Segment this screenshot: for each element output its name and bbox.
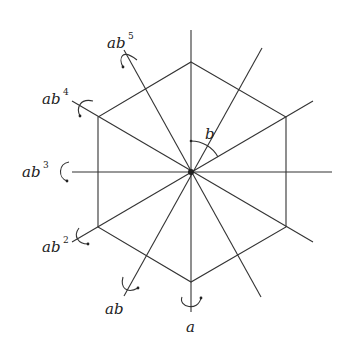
label-ab5-exp: 5 xyxy=(128,31,134,41)
label-ab: ab xyxy=(105,300,124,318)
flip-arrow-ab3 xyxy=(60,162,69,181)
label-a: a xyxy=(186,318,195,336)
flip-arrow-ab xyxy=(122,277,138,290)
label-ab4-exp: 4 xyxy=(63,87,69,97)
label-ab2: ab xyxy=(42,238,61,256)
label-ab4: ab xyxy=(42,90,61,108)
label-ab3: ab xyxy=(22,163,41,181)
hexagon-symmetry-diagram: b ab 5 ab 4 ab 3 ab 2 ab a xyxy=(0,0,349,342)
rotation-arc-b xyxy=(191,141,218,157)
label-ab2-exp: 2 xyxy=(63,235,69,245)
flip-arrow-ab4 xyxy=(79,100,93,116)
label-b: b xyxy=(205,125,215,143)
flip-arrow-ab5 xyxy=(121,54,137,67)
center-point xyxy=(188,169,194,175)
label-ab5: ab xyxy=(107,34,126,52)
label-ab3-exp: 3 xyxy=(43,160,49,170)
